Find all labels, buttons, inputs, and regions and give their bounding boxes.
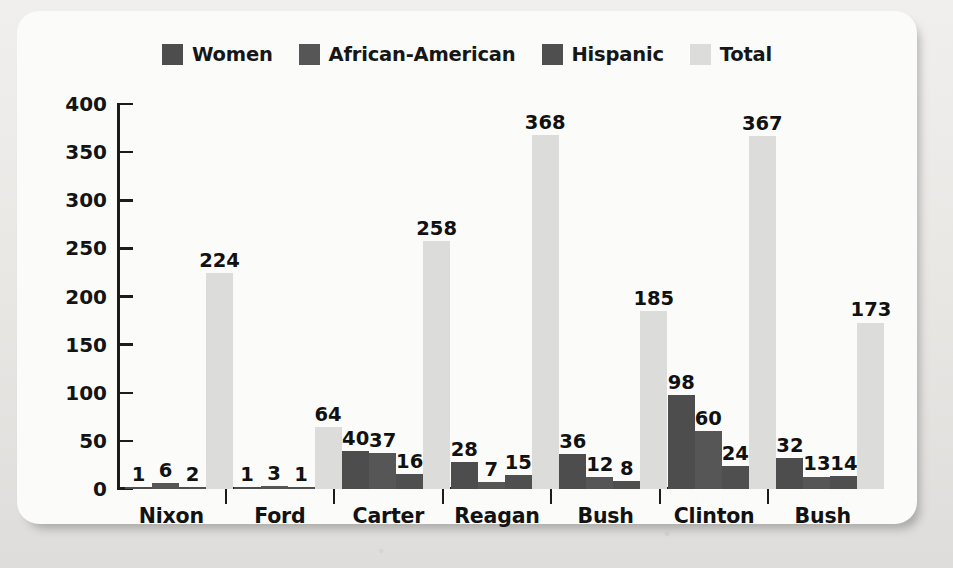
x-axis-label: Clinton — [660, 506, 769, 527]
bar-value-label: 368 — [523, 113, 568, 133]
x-axis-separator-tick — [225, 489, 227, 504]
bar-hispanic-ford — [288, 487, 315, 490]
bar-value-label: 64 — [306, 405, 351, 425]
y-axis-tick-label: 400 — [49, 94, 107, 114]
bar-total-bush — [857, 323, 884, 490]
legend-item-african-american: African-American — [299, 44, 516, 65]
x-axis-separator-tick — [659, 489, 661, 504]
bar-value-label: 60 — [686, 409, 731, 429]
bar-african-american-nixon — [152, 483, 179, 489]
bar-value-label: 36 — [550, 432, 595, 452]
x-axis-separator-tick — [767, 489, 769, 504]
y-axis-tick — [117, 199, 133, 202]
y-axis-tick — [117, 440, 133, 443]
x-axis-label: Bush — [551, 506, 660, 527]
bar-women-carter — [342, 451, 369, 490]
chart-card: WomenAfrican-AmericanHispanicTotal 40035… — [17, 11, 917, 524]
y-axis-tick — [117, 392, 133, 395]
chart-legend: WomenAfrican-AmericanHispanicTotal — [17, 44, 917, 65]
y-axis-tick-label: 150 — [49, 335, 107, 355]
x-axis-separator-tick — [333, 489, 335, 504]
bar-value-label: 98 — [659, 373, 704, 393]
y-axis-tick — [117, 103, 133, 106]
bar-value-label: 367 — [740, 114, 785, 134]
bar-value-label: 37 — [360, 431, 405, 451]
legend-swatch-icon — [542, 44, 563, 65]
y-axis-tick-label: 200 — [49, 287, 107, 307]
x-axis-label: Carter — [334, 506, 443, 527]
y-axis-tick — [117, 295, 133, 298]
legend-label: African-American — [329, 45, 516, 65]
legend-item-hispanic: Hispanic — [542, 44, 664, 65]
bar-value-label: 258 — [414, 219, 459, 239]
legend-item-women: Women — [162, 44, 273, 65]
bar-value-label: 224 — [197, 251, 242, 271]
bar-hispanic-bush — [830, 476, 857, 489]
legend-swatch-icon — [299, 44, 320, 65]
y-axis-tick-label: 350 — [49, 142, 107, 162]
legend-label: Hispanic — [572, 45, 664, 65]
plot-area: 400350300250200150100500 NixonFordCarter… — [117, 104, 877, 489]
y-axis-tick-label: 100 — [49, 383, 107, 403]
bar-african-american-bush — [586, 477, 613, 489]
y-axis-tick — [117, 151, 133, 154]
bar-value-label: 28 — [442, 440, 487, 460]
x-axis-label: Bush — [768, 506, 877, 527]
legend-item-total: Total — [690, 44, 772, 65]
bar-hispanic-reagan — [505, 475, 532, 489]
x-axis-separator-tick — [442, 489, 444, 504]
bar-hispanic-nixon — [179, 487, 206, 490]
y-axis-tick-label: 300 — [49, 190, 107, 210]
x-axis-separator-tick — [550, 489, 552, 504]
bar-hispanic-clinton — [722, 466, 749, 489]
x-axis-label: Nixon — [117, 506, 226, 527]
bar-value-label: 185 — [631, 289, 676, 309]
bar-women-nixon — [125, 487, 152, 490]
x-axis-label: Reagan — [443, 506, 552, 527]
y-axis-tick — [117, 343, 133, 346]
x-axis-label: Ford — [226, 506, 335, 527]
bar-hispanic-bush — [613, 481, 640, 489]
bar-african-american-ford — [261, 486, 288, 489]
legend-label: Women — [192, 45, 273, 65]
bar-african-american-bush — [803, 477, 830, 490]
y-axis-tick-label: 250 — [49, 238, 107, 258]
page-background: WomenAfrican-AmericanHispanicTotal 40035… — [0, 0, 953, 568]
y-axis-tick-label: 0 — [49, 479, 107, 499]
bar-african-american-reagan — [478, 482, 505, 489]
legend-label: Total — [720, 45, 772, 65]
bar-women-ford — [234, 487, 261, 490]
bar-total-bush — [640, 311, 667, 489]
bar-value-label: 173 — [848, 300, 893, 320]
legend-swatch-icon — [162, 44, 183, 65]
y-axis-tick-label: 50 — [49, 431, 107, 451]
bar-hispanic-carter — [396, 474, 423, 489]
legend-swatch-icon — [690, 44, 711, 65]
bar-total-nixon — [206, 273, 233, 489]
y-axis-labels: 400350300250200150100500 — [45, 104, 107, 489]
y-axis-tick — [117, 247, 133, 250]
